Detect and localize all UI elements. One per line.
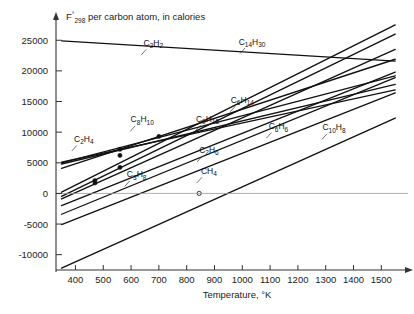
x-tick-label-600: 600 xyxy=(123,274,139,285)
x-tick-label-1300: 1300 xyxy=(315,274,336,285)
marker-c6h6-0 xyxy=(118,153,122,157)
x-tick-label-1500: 1500 xyxy=(371,274,392,285)
y-tick-label-0: 0 xyxy=(43,188,48,199)
y-tick-label-15000: 15000 xyxy=(22,96,48,107)
y-tick-label-20000: 20000 xyxy=(22,65,48,76)
x-tick-label-1100: 1100 xyxy=(260,274,280,285)
marker-c6h14-0 xyxy=(93,181,97,185)
x-tick-label-700: 700 xyxy=(151,274,167,285)
x-tick-label-800: 800 xyxy=(179,274,195,285)
x-tick-label-1200: 1200 xyxy=(287,274,308,285)
y-tick-label--5000: -5000 xyxy=(24,219,48,230)
x-axis-title: Temperature, °K xyxy=(203,289,272,300)
x-tick-label-1400: 1400 xyxy=(343,274,364,285)
marker-c8h10-1 xyxy=(157,134,161,138)
y-tick-label--10000: -10000 xyxy=(18,249,48,260)
marker-c8h10-0 xyxy=(118,147,122,151)
x-tick-label-400: 400 xyxy=(68,274,84,285)
x-tick-label-500: 500 xyxy=(95,274,111,285)
y-axis-title: F°298 per carbon atom, in calories xyxy=(66,11,205,24)
y-tick-label-5000: 5000 xyxy=(27,157,48,168)
x-tick-label-900: 900 xyxy=(207,274,223,285)
free-energy-chart: 4005006007008009001000110012001300140015… xyxy=(0,0,414,314)
chart-svg: 4005006007008009001000110012001300140015… xyxy=(0,0,414,314)
y-tick-label-25000: 25000 xyxy=(22,35,48,46)
marker-c9h18-1 xyxy=(118,165,122,169)
x-tick-label-1000: 1000 xyxy=(232,274,253,285)
y-tick-label-10000: 10000 xyxy=(22,127,48,138)
